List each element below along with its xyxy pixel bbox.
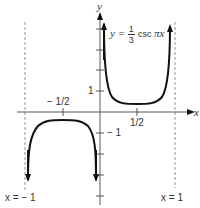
y-axis-label: y xyxy=(97,1,102,12)
equation-label: y = 1 3 csc πx xyxy=(110,24,164,45)
asymptote-label-right: x = 1 xyxy=(161,193,183,203)
plot-canvas xyxy=(0,0,197,208)
curve-lower-branch xyxy=(28,120,96,178)
tick-label-neg-one: − 1 xyxy=(107,128,121,138)
cosecant-graph: y x y = 1 3 csc πx − 1/2 1/2 1 − 1 x = −… xyxy=(0,0,197,208)
tick-label-neg-half: − 1/2 xyxy=(47,97,70,107)
x-axis-label: x xyxy=(194,107,197,118)
tick-label-half: 1/2 xyxy=(130,118,144,128)
asymptote-label-left: x = − 1 xyxy=(5,193,36,203)
tick-label-one: 1 xyxy=(88,86,94,96)
fraction: 1 3 xyxy=(128,24,135,45)
